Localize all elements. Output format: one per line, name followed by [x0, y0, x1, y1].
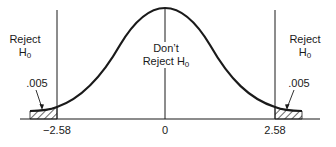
left-reject-label: Reject H0: [4, 33, 46, 59]
left-tail-area-label: .005: [22, 77, 52, 90]
center-dont-reject-label: Don’t Reject H0: [128, 42, 204, 68]
center-reject-h0-text: Reject H0: [128, 55, 204, 68]
tick-label-0: 0: [155, 124, 175, 137]
left-reject-text: Reject: [4, 33, 46, 46]
left-h0-text: H0: [4, 46, 46, 59]
right-reject-label: Reject H0: [280, 33, 330, 59]
tick-label-neg-2-58: −2.58: [35, 124, 79, 137]
right-h0-text: H0: [280, 46, 330, 59]
center-dont-text: Don’t: [128, 42, 204, 55]
right-reject-text: Reject: [280, 33, 330, 46]
right-tail-area-label: .005: [284, 77, 314, 90]
tick-label-2-58: 2.58: [257, 124, 293, 137]
